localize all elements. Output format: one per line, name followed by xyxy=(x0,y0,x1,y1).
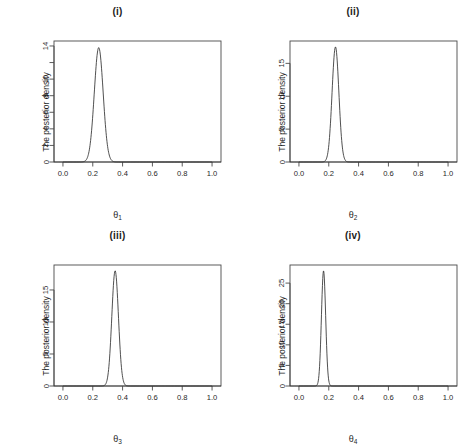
svg-text:0.6: 0.6 xyxy=(383,393,394,402)
x-axis-label-subscript: 4 xyxy=(354,438,358,445)
svg-text:0.0: 0.0 xyxy=(58,169,69,178)
svg-text:0.2: 0.2 xyxy=(323,393,334,402)
svg-text:0.0: 0.0 xyxy=(293,169,304,178)
svg-text:10: 10 xyxy=(277,92,286,100)
svg-text:1.0: 1.0 xyxy=(442,393,453,402)
x-axis-label: θ4 xyxy=(236,434,471,445)
svg-text:10: 10 xyxy=(42,318,51,326)
plot-area: 0.00.20.40.60.81.0051015 xyxy=(0,224,235,448)
svg-text:6: 6 xyxy=(42,110,51,114)
panel-i: (i) The posterior density 0.00.20.40.60.… xyxy=(0,0,235,224)
x-axis-label-subscript: 3 xyxy=(118,438,122,445)
svg-text:0.4: 0.4 xyxy=(353,169,364,178)
svg-text:10: 10 xyxy=(42,75,51,83)
panel-iv: (iv) The posterior density 0.00.20.40.60… xyxy=(236,224,471,448)
svg-text:2: 2 xyxy=(42,143,51,147)
svg-text:5: 5 xyxy=(42,352,51,356)
x-axis-label: θ2 xyxy=(236,210,471,221)
svg-text:0.6: 0.6 xyxy=(147,393,158,402)
svg-text:0.6: 0.6 xyxy=(147,169,158,178)
svg-text:25: 25 xyxy=(277,279,286,287)
svg-text:15: 15 xyxy=(42,286,51,294)
x-axis-label-subscript: 1 xyxy=(118,214,122,221)
svg-text:0: 0 xyxy=(277,160,286,164)
svg-text:0.8: 0.8 xyxy=(177,169,188,178)
svg-text:8: 8 xyxy=(42,94,51,98)
svg-text:0.4: 0.4 xyxy=(117,393,128,402)
panel-iii: (iii) The posterior density 0.00.20.40.6… xyxy=(0,224,235,448)
x-axis-label-subscript: 2 xyxy=(354,214,358,221)
svg-text:0: 0 xyxy=(277,384,286,388)
svg-text:0: 0 xyxy=(42,160,51,164)
svg-text:0.2: 0.2 xyxy=(323,169,334,178)
figure-grid: (i) The posterior density 0.00.20.40.60.… xyxy=(0,0,471,448)
svg-text:0.4: 0.4 xyxy=(117,169,128,178)
svg-text:1.0: 1.0 xyxy=(207,393,218,402)
svg-text:0.8: 0.8 xyxy=(412,393,423,402)
svg-text:0.2: 0.2 xyxy=(87,393,98,402)
svg-text:0.8: 0.8 xyxy=(412,169,423,178)
svg-text:0.4: 0.4 xyxy=(353,393,364,402)
svg-text:5: 5 xyxy=(277,363,286,367)
svg-text:0.0: 0.0 xyxy=(58,393,69,402)
plot-area: 0.00.20.40.60.81.0051015 xyxy=(236,0,471,224)
x-axis-label: θ1 xyxy=(0,210,235,221)
svg-text:0.6: 0.6 xyxy=(383,169,394,178)
svg-text:1.0: 1.0 xyxy=(207,169,218,178)
svg-text:0: 0 xyxy=(42,384,51,388)
svg-text:1.0: 1.0 xyxy=(442,169,453,178)
svg-text:14: 14 xyxy=(42,42,51,50)
svg-text:15: 15 xyxy=(277,59,286,67)
svg-text:10: 10 xyxy=(277,341,286,349)
svg-text:0.0: 0.0 xyxy=(293,393,304,402)
svg-text:20: 20 xyxy=(277,299,286,307)
plot-area: 0.00.20.40.60.81.00510152025 xyxy=(236,224,471,448)
svg-text:15: 15 xyxy=(277,320,286,328)
plot-area: 0.00.20.40.60.81.0024681014 xyxy=(0,0,235,224)
svg-text:0.2: 0.2 xyxy=(87,169,98,178)
svg-text:4: 4 xyxy=(42,127,51,131)
svg-text:0.8: 0.8 xyxy=(177,393,188,402)
panel-ii: (ii) The posterior density 0.00.20.40.60… xyxy=(236,0,471,224)
svg-text:5: 5 xyxy=(277,127,286,131)
x-axis-label: θ3 xyxy=(0,434,235,445)
